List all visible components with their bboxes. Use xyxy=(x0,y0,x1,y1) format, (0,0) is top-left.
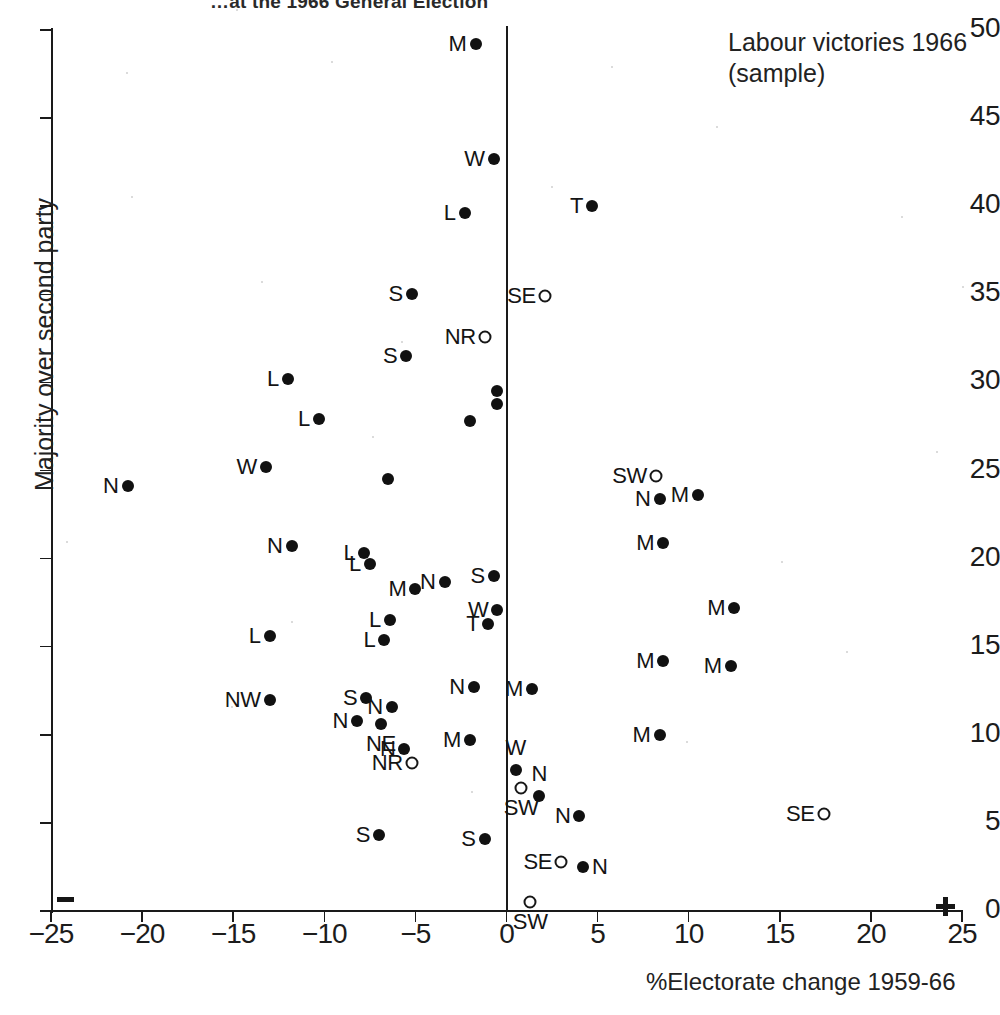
y-tick xyxy=(40,294,51,296)
data-point xyxy=(122,480,134,492)
y-tick-label: 35 xyxy=(954,276,1000,308)
data-point xyxy=(384,614,396,626)
data-point-label: W xyxy=(464,146,484,172)
scan-speck xyxy=(131,196,133,198)
y-tick-label: 50 xyxy=(954,12,1000,44)
data-point xyxy=(538,290,551,303)
data-point xyxy=(264,694,276,706)
data-point-label: S xyxy=(388,281,402,307)
scan-speck xyxy=(126,72,128,74)
data-point-label: T xyxy=(570,193,583,219)
x-tick-label: 5 xyxy=(590,918,605,950)
data-point xyxy=(470,38,482,50)
scan-speck xyxy=(331,61,333,63)
data-point xyxy=(491,385,503,397)
plus-sign-icon xyxy=(936,897,955,916)
y-tick-label: 15 xyxy=(954,629,1000,661)
scan-speck xyxy=(716,126,718,128)
data-point-label: S xyxy=(356,822,370,848)
data-point xyxy=(439,576,451,588)
y-tick xyxy=(40,205,51,207)
data-point xyxy=(654,729,666,741)
data-point xyxy=(459,207,471,219)
data-point-label: SW xyxy=(504,795,539,821)
data-point xyxy=(313,413,325,425)
data-point-label: M xyxy=(636,648,654,674)
chart-root: …at the 1966 General Election Majority o… xyxy=(0,0,1000,1015)
data-point-label: L xyxy=(267,366,279,392)
scan-speck xyxy=(962,286,964,288)
x-tick-label: 15 xyxy=(765,918,794,950)
chart-title: …at the 1966 General Election xyxy=(210,0,488,13)
data-point-label: M xyxy=(707,595,725,621)
x-tick-label: −10 xyxy=(302,918,347,950)
data-point-label: N xyxy=(367,694,383,720)
data-point-label: S xyxy=(461,826,475,852)
data-point-label: M xyxy=(671,482,689,508)
y-tick-label: 25 xyxy=(954,453,1000,485)
data-point-label: N xyxy=(420,569,436,595)
x-tick-label: −15 xyxy=(211,918,256,950)
data-point xyxy=(382,473,394,485)
scan-speck xyxy=(611,66,613,68)
y-tick xyxy=(40,117,51,119)
data-point xyxy=(515,781,528,794)
data-point xyxy=(526,683,538,695)
scan-speck xyxy=(236,9,238,11)
zero-reference-line xyxy=(506,26,508,912)
scan-speck xyxy=(372,436,374,438)
data-point-label: M xyxy=(449,31,467,57)
data-point xyxy=(657,655,669,667)
data-point xyxy=(555,855,568,868)
data-point xyxy=(351,715,363,727)
data-point xyxy=(409,583,421,595)
x-axis-title: %Electorate change 1959-66 xyxy=(646,968,956,996)
data-point xyxy=(488,570,500,582)
x-tick-label: −5 xyxy=(400,918,430,950)
y-tick xyxy=(40,646,51,648)
scan-speck xyxy=(66,541,68,543)
data-point xyxy=(479,833,491,845)
data-point-label: S xyxy=(383,343,397,369)
scan-speck xyxy=(401,341,403,343)
data-point xyxy=(488,153,500,165)
data-point xyxy=(282,373,294,385)
data-point-label: N xyxy=(592,854,608,880)
data-point-label: N xyxy=(103,473,119,499)
data-point-label: N xyxy=(532,761,548,787)
chart-annotation: Labour victories 1966 (sample) xyxy=(728,27,967,89)
y-axis-title: Majority over second party xyxy=(30,175,59,515)
data-point xyxy=(692,489,704,501)
data-point xyxy=(649,469,662,482)
data-point xyxy=(378,634,390,646)
data-point-label: S xyxy=(470,563,484,589)
data-point-label: W xyxy=(505,735,525,761)
scan-speck xyxy=(781,561,783,563)
y-tick-label: 30 xyxy=(954,364,1000,396)
data-point xyxy=(406,288,418,300)
data-point-label: SE xyxy=(507,283,536,309)
scan-speck xyxy=(846,651,848,653)
data-point-label: NR xyxy=(372,750,403,776)
scan-speck xyxy=(231,706,233,708)
y-tick xyxy=(40,382,51,384)
scan-speck xyxy=(471,791,473,793)
y-tick xyxy=(40,470,51,472)
data-point-label: SE xyxy=(524,849,553,875)
data-point xyxy=(468,681,480,693)
x-tick-label: −20 xyxy=(120,918,165,950)
data-point-label: L xyxy=(249,623,261,649)
x-tick-label: 0 xyxy=(499,918,514,950)
data-point-label: N xyxy=(333,708,349,734)
chart-title-strip: …at the 1966 General Election xyxy=(0,0,1000,16)
y-tick xyxy=(40,822,51,824)
data-point-label: L xyxy=(364,627,376,653)
data-point-label: N xyxy=(449,674,465,700)
data-point-label: N xyxy=(267,533,283,559)
data-point xyxy=(725,660,737,672)
scan-speck xyxy=(686,741,688,743)
data-point xyxy=(478,330,491,343)
data-point-label: SW xyxy=(513,909,548,935)
data-point xyxy=(264,630,276,642)
data-point-label: NR xyxy=(445,324,476,350)
